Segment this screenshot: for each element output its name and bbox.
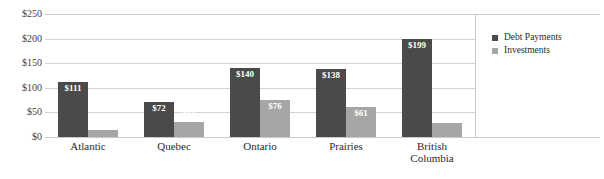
x-axis-label-line: Ontario: [217, 140, 303, 152]
x-axis-category-labels: AtlanticQuebecOntarioPrairiesBritishColu…: [45, 140, 475, 164]
bar-data-label: $15: [88, 119, 118, 128]
bar-data-label: $199: [402, 41, 432, 50]
y-axis-tick-label: $150: [0, 58, 42, 68]
bar-debt-payments[interactable]: $72: [144, 102, 174, 137]
bar-data-label: $140: [230, 70, 260, 79]
bar-group: $72$30: [131, 14, 217, 137]
legend-square-marker-icon: [492, 48, 498, 54]
x-axis-label-ontario: Ontario: [217, 140, 303, 164]
bar-group: $138$61: [303, 14, 389, 137]
legend-item[interactable]: Debt Payments: [492, 32, 600, 43]
y-axis: $0$50$100$150$200$250: [0, 0, 42, 179]
y-axis-tick-label: $100: [0, 83, 42, 93]
plot-legend-divider: [475, 14, 476, 137]
legend-item-label: Debt Payments: [504, 32, 562, 43]
bar-data-label: $138: [316, 71, 346, 80]
bar-group: $111$15: [45, 14, 131, 137]
bar-group: $140$76: [217, 14, 303, 137]
x-axis-label-line: Prairies: [303, 140, 389, 152]
bar-chart: $0$50$100$150$200$250 $111$15$72$30$140$…: [0, 0, 604, 179]
y-axis-tick-label: $0: [0, 132, 42, 142]
bar-debt-payments[interactable]: $199: [402, 39, 432, 137]
bar-data-label: $30: [174, 111, 204, 120]
bar-investments[interactable]: $15: [88, 130, 118, 137]
bar-groups: $111$15$72$30$140$76$138$61$199$28: [45, 14, 475, 137]
bar-data-label: $28: [432, 112, 462, 121]
legend-item[interactable]: Investments: [492, 45, 600, 56]
bar-debt-payments[interactable]: $138: [316, 69, 346, 137]
bar-debt-payments[interactable]: $111: [58, 82, 88, 137]
chart-legend: Debt PaymentsInvestments: [492, 32, 600, 58]
legend-item-label: Investments: [504, 45, 550, 56]
y-axis-tick-label: $50: [0, 107, 42, 117]
x-axis-label-line: Quebec: [131, 140, 217, 152]
bar-data-label: $61: [346, 109, 376, 118]
bar-investments[interactable]: $30: [174, 122, 204, 137]
bar-investments[interactable]: $76: [260, 100, 290, 137]
chart-baseline: [45, 137, 600, 138]
x-axis-label-line: Columbia: [389, 152, 475, 164]
bar-investments[interactable]: $61: [346, 107, 376, 137]
x-axis-label-prairies: Prairies: [303, 140, 389, 164]
bar-data-label: $111: [58, 84, 88, 93]
bar-debt-payments[interactable]: $140: [230, 68, 260, 137]
bar-investments[interactable]: $28: [432, 123, 462, 137]
bar-data-label: $76: [260, 102, 290, 111]
bar-group: $199$28: [389, 14, 475, 137]
x-axis-label-quebec: Quebec: [131, 140, 217, 164]
x-axis-label-british-columbia: BritishColumbia: [389, 140, 475, 164]
plot-area: $111$15$72$30$140$76$138$61$199$28: [45, 14, 475, 137]
legend-square-marker-icon: [492, 35, 498, 41]
x-axis-label-line: Atlantic: [45, 140, 131, 152]
bar-data-label: $72: [144, 104, 174, 113]
y-axis-tick-label: $200: [0, 34, 42, 44]
x-axis-label-atlantic: Atlantic: [45, 140, 131, 164]
y-axis-tick-label: $250: [0, 9, 42, 19]
x-axis-label-line: British: [389, 140, 475, 152]
